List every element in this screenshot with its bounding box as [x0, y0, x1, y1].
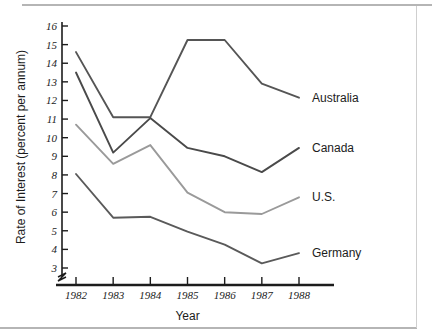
- y-axis-tick-labels: 345678910111213141516: [46, 20, 58, 274]
- x-axis-title: Year: [175, 309, 199, 323]
- chart-figure: 345678910111213141516 198219831984198519…: [0, 0, 432, 333]
- x-tick-label: 1986: [214, 289, 237, 301]
- x-tick-label: 1982: [65, 289, 88, 301]
- y-tick-label: 7: [52, 188, 58, 200]
- x-tick-label: 1987: [251, 289, 274, 301]
- series-label-canada: Canada: [312, 141, 354, 155]
- line-chart: 345678910111213141516 198219831984198519…: [0, 0, 432, 333]
- series-label-us: U.S.: [312, 190, 335, 204]
- y-axis-ticks: [62, 26, 68, 268]
- y-tick-label: 12: [46, 94, 58, 106]
- series-line-germany: [76, 174, 299, 263]
- series-label-germany: Germany: [312, 246, 361, 260]
- series-label-australia: Australia: [312, 91, 359, 105]
- x-axis-tick-labels: 1982198319841985198619871988: [65, 289, 311, 301]
- y-tick-label: 4: [52, 243, 58, 255]
- y-tick-label: 13: [46, 76, 58, 88]
- y-tick-label: 10: [46, 132, 58, 144]
- x-tick-label: 1984: [139, 289, 162, 301]
- series-inline-labels: AustraliaCanadaU.S.Germany: [312, 91, 361, 260]
- series-line-australia: [76, 40, 299, 117]
- x-tick-label: 1985: [177, 289, 200, 301]
- data-series-lines: [76, 40, 299, 263]
- x-tick-label: 1988: [288, 289, 311, 301]
- x-axis-ticks: [76, 277, 299, 284]
- y-tick-label: 16: [46, 20, 58, 32]
- y-axis-title: Rate of Interest (percent per annum): [14, 50, 28, 244]
- y-tick-label: 6: [52, 206, 58, 218]
- y-tick-label: 9: [52, 150, 58, 162]
- y-tick-label: 3: [51, 262, 58, 274]
- x-tick-label: 1983: [102, 289, 125, 301]
- y-axis: 345678910111213141516: [46, 20, 68, 281]
- y-tick-label: 8: [52, 169, 58, 181]
- x-axis: 1982198319841985198619871988: [56, 277, 334, 301]
- y-tick-label: 11: [47, 113, 57, 125]
- y-tick-label: 5: [52, 225, 58, 237]
- y-tick-label: 14: [46, 57, 58, 69]
- series-line-canada: [76, 73, 299, 173]
- y-tick-label: 15: [46, 39, 58, 51]
